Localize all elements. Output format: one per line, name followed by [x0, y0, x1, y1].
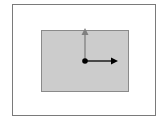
- vector-overlay: [0, 0, 163, 121]
- up-arrow-head-icon: [82, 28, 89, 35]
- right-arrow-head-icon: [111, 58, 118, 65]
- origin-point: [82, 58, 88, 64]
